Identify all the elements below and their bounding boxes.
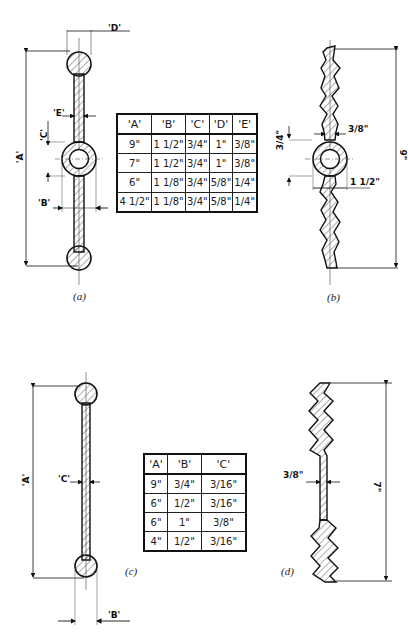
table-row: 6" 1 1/8" 3/4" 5/8" 1/4" [117, 173, 257, 192]
table-cell: 1 1/2" [152, 134, 186, 154]
table-cell: 1/2" [168, 494, 202, 513]
table-header-cell: 'B' [168, 454, 202, 474]
table-cell: 5/8" [209, 173, 233, 192]
table-header-cell: 'A' [117, 114, 152, 134]
table-cell: 3/8" [201, 513, 246, 532]
table-cell: 6" [117, 173, 152, 192]
table-cell: 3/16" [201, 474, 246, 494]
table-cell: 1" [168, 513, 202, 532]
table-cell: 3/16" [201, 494, 246, 513]
table-header-cell: 'B' [152, 114, 186, 134]
table-header-row: 'A' 'B' 'C' [144, 454, 246, 474]
table-row: 9" 1 1/2" 3/4" 1" 3/8" [117, 134, 257, 154]
caption-c: (c) [125, 565, 137, 577]
table-header-row: 'A' 'B' 'C' 'D' 'E' [117, 114, 257, 134]
table-row: 6" 1/2" 3/16" [144, 494, 246, 513]
dim-label-d-flange: 3/8" [283, 470, 304, 480]
table-cell: 1" [209, 134, 233, 154]
table-cell: 1 1/8" [152, 173, 186, 192]
table-header-cell: 'C' [201, 454, 246, 474]
table-cell: 9" [144, 474, 168, 494]
table-header-cell: 'C' [186, 114, 210, 134]
table-cell: 6" [144, 494, 168, 513]
dim-label-b-width: 1 1/2" [350, 177, 380, 187]
caption-a: (a) [73, 290, 86, 302]
table-cell: 3/4" [186, 134, 210, 154]
table-cell: 9" [117, 134, 152, 154]
table-cell: 6" [144, 513, 168, 532]
dim-label-a-c: 'C' [39, 129, 49, 141]
figure-a-section [26, 30, 130, 285]
table-header-cell: 'D' [209, 114, 233, 134]
dim-label-a-d: 'D' [108, 23, 121, 33]
figure-b-section [289, 40, 398, 285]
dimension-table-1: 'A' 'B' 'C' 'D' 'E' 9" 1 1/2" 3/4" 1" 3/… [116, 113, 258, 213]
dim-label-c-a: 'A' [21, 474, 31, 486]
dim-label-a-a: 'A' [15, 151, 25, 163]
table-row: 9" 3/4" 3/16" [144, 474, 246, 494]
dimension-table-2: 'A' 'B' 'C' 9" 3/4" 3/16" 6" 1/2" 3/16" … [143, 453, 247, 552]
table-row: 4 1/2" 1 1/8" 3/4" 5/8" 1/4" [117, 192, 257, 212]
dim-label-b-offset: 3/4" [275, 130, 285, 151]
table-row: 6" 1" 3/8" [144, 513, 246, 532]
table-cell: 1/2" [168, 532, 202, 552]
caption-b: (b) [327, 291, 340, 303]
dim-label-a-e: 'E' [53, 108, 65, 118]
table-cell: 3/4" [168, 474, 202, 494]
table-cell: 3/4" [186, 173, 210, 192]
table-cell: 7" [117, 154, 152, 173]
table-cell: 4" [144, 532, 168, 552]
table-cell: 3/4" [186, 154, 210, 173]
table-cell: 3/4" [186, 192, 210, 212]
table-cell: 1 1/8" [152, 192, 186, 212]
table-cell: 3/16" [201, 532, 246, 552]
table-cell: 1/4" [233, 192, 257, 212]
table-cell: 1/4" [233, 173, 257, 192]
dim-label-d-height: 7" [372, 482, 382, 493]
table-row: 7" 1 1/2" 3/4" 1" 3/8" [117, 154, 257, 173]
table-header-cell: 'A' [144, 454, 168, 474]
dim-label-c-b: 'B' [108, 610, 120, 620]
table-row: 4" 1/2" 3/16" [144, 532, 246, 552]
table-cell: 4 1/2" [117, 192, 152, 212]
figure-c-section [33, 372, 130, 625]
table-cell: 1" [209, 154, 233, 173]
table-cell: 1 1/2" [152, 154, 186, 173]
table-header-cell: 'E' [233, 114, 257, 134]
dim-label-b-height: 9" [398, 150, 408, 161]
dim-label-b-flange: 3/8" [348, 124, 369, 134]
table-cell: 3/8" [233, 134, 257, 154]
table-cell: 3/8" [233, 154, 257, 173]
dim-label-a-b: 'B' [38, 198, 50, 208]
dim-label-c-c: 'C' [58, 474, 70, 484]
table-cell: 5/8" [209, 192, 233, 212]
caption-d: (d) [281, 565, 294, 577]
